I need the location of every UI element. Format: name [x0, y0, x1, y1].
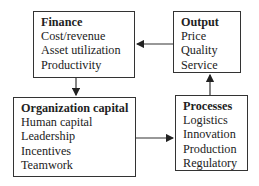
processes-title: Processes — [183, 99, 247, 113]
processes-item: Production — [183, 142, 247, 156]
organization-capital-item: Human capital — [21, 115, 135, 129]
processes-item: Innovation — [183, 127, 247, 141]
finance-item: Productivity — [41, 58, 134, 72]
finance-title: Finance — [41, 15, 134, 29]
organization-capital-item: Teamwork — [21, 158, 135, 172]
organization-capital-title: Organization capital — [21, 101, 135, 115]
organization-capital-box: Organization capital Human capital Leade… — [13, 97, 136, 177]
processes-item: Logistics — [183, 113, 247, 127]
output-item: Service — [181, 58, 240, 72]
finance-item: Cost/revenue — [41, 29, 134, 43]
output-title: Output — [181, 15, 240, 29]
organization-capital-item: Incentives — [21, 144, 135, 158]
output-item: Price — [181, 29, 240, 43]
processes-box: Processes Logistics Innovation Productio… — [175, 95, 248, 171]
finance-item: Asset utilization — [41, 43, 134, 57]
finance-box: Finance Cost/revenue Asset utilization P… — [33, 11, 135, 78]
organization-capital-item: Leadership — [21, 129, 135, 143]
processes-item: Regulatory — [183, 156, 247, 170]
output-item: Quality — [181, 43, 240, 57]
output-box: Output Price Quality Service — [173, 11, 241, 73]
